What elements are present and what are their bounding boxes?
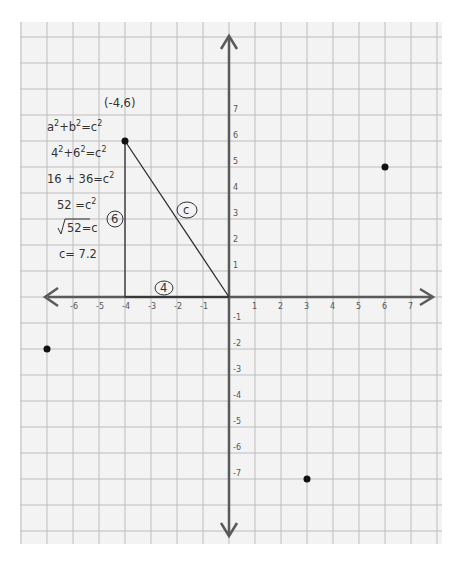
- y-tick-label: -1: [233, 313, 241, 322]
- work-line-3: 16 + 36=c2: [47, 171, 114, 186]
- x-tick-label: -1: [200, 302, 208, 311]
- work-line-2: 42+62=c2: [51, 145, 107, 160]
- x-tick-label: -4: [122, 302, 130, 311]
- pythagorean-work: a2+b2=c2 42+62=c2 16 + 36=c2 52 =c2 52=c…: [47, 119, 114, 261]
- y-tick-label: 1: [233, 261, 238, 270]
- data-point: [122, 138, 129, 145]
- x-tick-label: 2: [278, 302, 283, 311]
- grid-lines: [20, 22, 442, 544]
- tick-labels: -6-5-4-3-2-112345677654321-1-2-3-4-5-6-7: [70, 105, 413, 478]
- data-point: [304, 476, 311, 483]
- y-tick-label: 6: [233, 131, 238, 140]
- y-tick-label: 4: [233, 183, 238, 192]
- work-line-1: a2+b2=c2: [47, 119, 102, 134]
- svg-text:52=c: 52=c: [67, 221, 98, 235]
- y-tick-label: -6: [233, 443, 241, 452]
- x-tick-label: 4: [330, 302, 335, 311]
- data-point: [382, 164, 389, 171]
- y-tick-label: 5: [233, 157, 238, 166]
- svg-text:4: 4: [160, 281, 167, 295]
- y-tick-label: 2: [233, 235, 238, 244]
- y-tick-label: 7: [233, 105, 238, 114]
- x-tick-label: -5: [96, 302, 104, 311]
- y-tick-label: -4: [233, 391, 241, 400]
- point-coordinate-label: (-4,6): [104, 96, 135, 110]
- svg-text:c: c: [183, 203, 189, 217]
- axes: [45, 36, 433, 536]
- work-line-6: c= 7.2: [59, 247, 97, 261]
- svg-text:6: 6: [111, 212, 118, 226]
- x-tick-label: -2: [174, 302, 182, 311]
- y-tick-label: -2: [233, 339, 241, 348]
- x-tick-label: -6: [70, 302, 78, 311]
- y-tick-label: -3: [233, 365, 241, 374]
- work-line-5: 52=c: [58, 219, 98, 235]
- side-c-label: c: [177, 202, 197, 218]
- x-tick-label: 5: [356, 302, 361, 311]
- side-a-label: 4: [155, 281, 173, 295]
- y-tick-label: 3: [233, 209, 238, 218]
- x-tick-label: 1: [252, 302, 257, 311]
- x-tick-label: 7: [408, 302, 413, 311]
- y-tick-label: -7: [233, 469, 241, 478]
- y-tick-label: -5: [233, 417, 241, 426]
- coordinate-plane: -6-5-4-3-2-112345677654321-1-2-3-4-5-6-7…: [0, 0, 464, 564]
- data-point: [44, 346, 51, 353]
- x-tick-label: 6: [382, 302, 387, 311]
- x-tick-label: -3: [148, 302, 156, 311]
- x-tick-label: 3: [304, 302, 309, 311]
- work-line-4: 52 =c2: [57, 197, 96, 212]
